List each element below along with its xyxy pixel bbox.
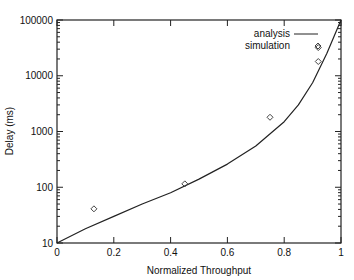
y-tick-label: 10 <box>42 238 54 249</box>
y-tick-label: 100000 <box>20 15 54 26</box>
x-tick-label: 0.8 <box>277 247 291 258</box>
analysis-curve <box>57 20 341 243</box>
x-tick-label: 0.2 <box>107 247 121 258</box>
x-tick-label: 1 <box>338 247 344 258</box>
plot-frame <box>57 20 341 243</box>
simulation-markers <box>91 45 321 212</box>
x-tick-label: 0.6 <box>220 247 234 258</box>
x-tick-label: 0 <box>54 247 60 258</box>
diamond-marker-icon <box>91 206 97 212</box>
diamond-marker-icon <box>267 114 273 120</box>
y-axis-title: Delay (ms) <box>4 107 15 155</box>
delay-vs-throughput-chart: 10100100010000100000 00.20.40.60.81 anal… <box>0 0 354 280</box>
x-axis-ticks: 00.20.40.60.81 <box>54 20 344 258</box>
y-tick-label: 100 <box>36 182 53 193</box>
legend-simulation-label: simulation <box>245 40 290 51</box>
y-tick-label: 1000 <box>31 126 54 137</box>
y-tick-label: 10000 <box>25 70 53 81</box>
x-axis-title: Normalized Throughput <box>147 265 252 276</box>
legend: analysis simulation <box>245 28 321 51</box>
legend-analysis-label: analysis <box>254 28 290 39</box>
x-tick-label: 0.4 <box>164 247 178 258</box>
y-axis-ticks: 10100100010000100000 <box>20 15 341 249</box>
diamond-marker-icon <box>315 59 321 65</box>
